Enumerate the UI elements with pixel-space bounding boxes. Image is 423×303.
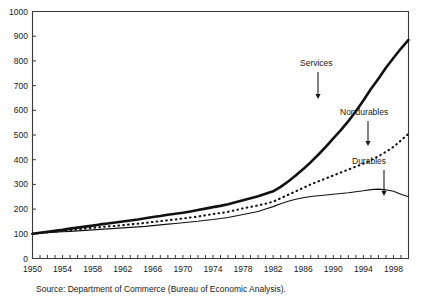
series-layer bbox=[33, 40, 409, 234]
x-tick-label: 1982 bbox=[264, 264, 283, 274]
plot-frame bbox=[33, 12, 409, 259]
x-tick-label: 1950 bbox=[23, 264, 42, 274]
x-axis-tick-labels: 1950195419581962196619701974197819821986… bbox=[23, 264, 403, 274]
x-tick-label: 1994 bbox=[354, 264, 373, 274]
x-tick-label: 1990 bbox=[324, 264, 343, 274]
annotation-label-services: Services bbox=[300, 58, 333, 68]
y-tick-label: 200 bbox=[14, 204, 28, 214]
x-tick-label: 1954 bbox=[53, 264, 72, 274]
y-tick-label: 400 bbox=[14, 155, 28, 165]
annotation-arrow-head-durables bbox=[381, 191, 386, 196]
x-tick-label: 1998 bbox=[384, 264, 403, 274]
axis-frame bbox=[33, 12, 409, 259]
annotation-label-durables: Durables bbox=[352, 156, 386, 166]
x-tick-label: 1978 bbox=[234, 264, 253, 274]
y-tick-label: 600 bbox=[14, 105, 28, 115]
y-tick-label: 0 bbox=[23, 254, 28, 264]
y-tick-label: 700 bbox=[14, 81, 28, 91]
x-tick-label: 1966 bbox=[143, 264, 162, 274]
source-note: Source: Department of Commerce (Bureau o… bbox=[36, 284, 286, 294]
annotation-arrow-head-services bbox=[315, 94, 320, 99]
annotation-arrow-head-nondurables bbox=[365, 141, 370, 146]
y-tick-label: 900 bbox=[14, 31, 28, 41]
y-tick-label: 1000 bbox=[9, 7, 28, 17]
annotation-label-nondurables: Nondurables bbox=[340, 107, 388, 117]
y-tick-label: 500 bbox=[14, 130, 28, 140]
x-tick-label: 1974 bbox=[204, 264, 223, 274]
y-tick-label: 300 bbox=[14, 179, 28, 189]
index-line-chart: 01002003004005006007008009001000 1950195… bbox=[0, 0, 423, 303]
chart-container: 01002003004005006007008009001000 1950195… bbox=[0, 0, 423, 303]
series-line-services bbox=[33, 40, 409, 234]
x-tick-label: 1970 bbox=[173, 264, 192, 274]
x-tick-label: 1958 bbox=[83, 264, 102, 274]
x-tick-label: 1986 bbox=[294, 264, 313, 274]
y-tick-label: 800 bbox=[14, 56, 28, 66]
x-tick-label: 1962 bbox=[113, 264, 132, 274]
y-tick-label: 100 bbox=[14, 229, 28, 239]
y-axis-tick-labels: 01002003004005006007008009001000 bbox=[9, 7, 28, 264]
